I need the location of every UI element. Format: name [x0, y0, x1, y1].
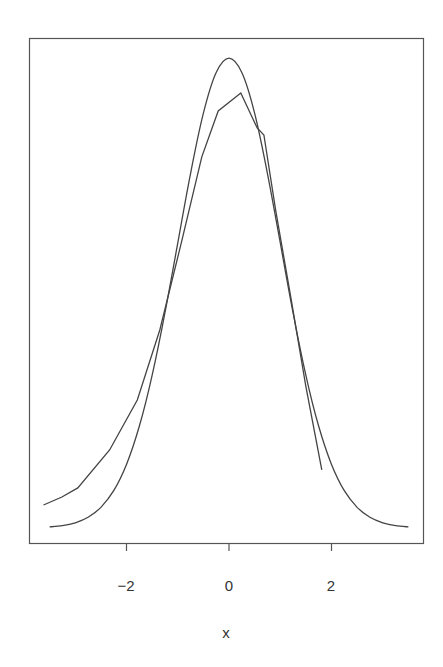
plot-frame [30, 39, 424, 544]
x-axis-ticks [127, 544, 332, 551]
x-tick-label-2: 2 [327, 577, 335, 594]
x-tick-label-0: 0 [225, 577, 233, 594]
x-tick-label-neg2: −2 [117, 577, 134, 594]
empirical-density-line [44, 93, 322, 505]
x-axis-tick-labels: −2 0 2 [117, 577, 335, 594]
x-axis-title: x [222, 624, 230, 641]
series-layer [44, 58, 409, 527]
density-plot: −2 0 2 x [0, 0, 443, 667]
